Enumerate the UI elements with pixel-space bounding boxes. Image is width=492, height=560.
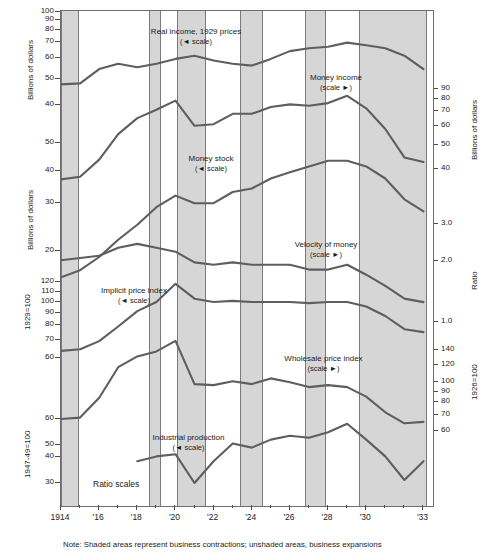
left-axis-tick-label: 100	[28, 297, 54, 305]
x-axis-tick-label: '26	[283, 512, 294, 522]
annotation-real-income: Real income, 1929 prices (◄ scale)	[126, 27, 266, 47]
right-axis-title-1: Billions of dollars	[470, 100, 479, 160]
right-axis-tick-label: 50	[441, 140, 465, 148]
chart-plot-area: Real income, 1929 prices (◄ scale) Money…	[60, 10, 434, 507]
x-axis-tick	[289, 505, 290, 510]
right-axis-tick-label: 80	[441, 94, 465, 102]
left-axis-title-1: Billions of dollars	[26, 40, 35, 100]
right-axis-tick-label: 80	[441, 397, 467, 405]
left-axis-tick-label: 90	[28, 308, 54, 316]
left-axis-tick-label: 30	[30, 478, 54, 486]
annotation-velocity-scale: (scale ►)	[261, 250, 391, 260]
right-axis-tick-label: 3.0	[441, 219, 467, 227]
left-axis-tick-label: 60	[28, 353, 54, 361]
x-axis-minor-tick	[403, 505, 404, 508]
right-axis-tick-label: 1.0	[441, 317, 467, 325]
annotation-money-stock-scale: (◄ scale)	[156, 164, 266, 174]
x-axis-tick	[327, 505, 328, 510]
x-axis-tick	[174, 505, 175, 510]
x-axis-minor-tick	[232, 505, 233, 508]
x-axis-minor-tick	[270, 505, 271, 508]
annotation-velocity-of-money: Velocity of money (scale ►)	[261, 240, 391, 260]
x-axis-tick	[60, 505, 61, 510]
right-axis-tick-label: 100	[441, 377, 467, 385]
annotation-money-income-scale: (scale ►)	[276, 83, 396, 93]
left-axis-tick-label: 70	[30, 37, 54, 45]
left-axis-tick-label: 30	[30, 198, 54, 206]
right-axis-tick-label: 40	[441, 164, 465, 172]
right-axis-title-3: 1926=100	[470, 364, 479, 400]
figure-note: Note: Shaded areas represent business co…	[63, 540, 382, 549]
x-axis-tick	[136, 505, 137, 510]
annotation-money-income: Money income (scale ►)	[276, 73, 396, 93]
right-axis-tick-label: 90	[441, 84, 465, 92]
right-axis-tick-label: 60	[441, 426, 467, 434]
left-axis-tick-label: 40	[30, 452, 54, 460]
annotation-velocity-text: Velocity of money	[295, 240, 358, 249]
right-axis-tick-label: 70	[441, 410, 467, 418]
left-axis-tick-label: 20	[30, 246, 54, 254]
annotation-wholesale-scale: (scale ►)	[251, 364, 396, 374]
x-axis-tick-label: 1914	[51, 512, 70, 522]
x-axis-tick	[98, 505, 99, 510]
x-axis-minor-tick	[308, 505, 309, 508]
x-axis-tick-label: '28	[322, 512, 333, 522]
annotation-money-stock-text: Money stock	[189, 154, 234, 163]
left-axis-tick-label: 60	[30, 414, 54, 422]
x-axis-tick	[422, 505, 423, 510]
left-axis-tick-label: 80	[30, 25, 54, 33]
x-axis-tick-label: '33	[417, 512, 428, 522]
left-axis-tick-label: 50	[30, 440, 54, 448]
x-axis-minor-tick	[117, 505, 118, 508]
x-axis-tick-label: '18	[131, 512, 142, 522]
annotation-implicit-text: Implicit price index	[101, 286, 167, 295]
figure-container: Billions of dollars 100 90 80 70 60 50 4…	[0, 0, 492, 560]
x-axis-tick-label: '20	[169, 512, 180, 522]
left-axis-tick-label: 60	[30, 53, 54, 61]
x-axis-minor-tick	[155, 505, 156, 508]
annotation-industrial-text: Industrial production	[152, 433, 224, 442]
right-axis-title-2: Ratio	[470, 271, 479, 290]
annotation-wholesale-text: Wholesale price index	[284, 354, 362, 363]
x-axis-tick	[365, 505, 366, 510]
x-axis-tick-label: '24	[245, 512, 256, 522]
left-axis-tick-label: 80	[28, 320, 54, 328]
x-axis-tick	[213, 505, 214, 510]
annotation-implicit-scale: (◄ scale)	[69, 296, 199, 306]
annotation-real-income-scale: (◄ scale)	[126, 37, 266, 47]
x-axis-minor-tick	[346, 505, 347, 508]
annotation-money-income-text: Money income	[310, 73, 362, 82]
annotation-industrial-scale: (◄ scale)	[121, 443, 256, 453]
x-axis-tick-label: '16	[93, 512, 104, 522]
left-axis-tick-label: 50	[30, 138, 54, 146]
annotation-money-stock: Money stock (◄ scale)	[156, 154, 266, 174]
left-axis-tick-label: 40	[30, 166, 54, 174]
right-axis-tick-label: 120	[441, 360, 467, 368]
x-axis-tick	[251, 505, 252, 510]
ratio-scales-label: Ratio scales	[93, 479, 139, 489]
left-axis-tick-label: 50	[30, 74, 54, 82]
x-axis-minor-tick	[79, 505, 80, 508]
annotation-wholesale-price-index: Wholesale price index (scale ►)	[251, 354, 396, 374]
x-axis-tick-label: '30	[360, 512, 371, 522]
annotation-real-income-text: Real income, 1929 prices	[151, 27, 241, 36]
right-axis-tick-label: 2.0	[441, 256, 467, 264]
right-axis-tick-label: 60	[441, 121, 465, 129]
left-axis-tick-label: 90	[30, 15, 54, 23]
x-axis-minor-tick	[194, 505, 195, 508]
x-axis-minor-tick	[384, 505, 385, 508]
right-axis-tick-label: 90	[441, 387, 467, 395]
left-axis-tick-label: 110	[28, 287, 54, 295]
annotation-implicit-price-index: Implicit price index (◄ scale)	[69, 286, 199, 306]
annotation-industrial-production: Industrial production (◄ scale)	[121, 433, 256, 453]
left-axis-tick-label: 40	[30, 100, 54, 108]
left-axis-tick-label: 120	[28, 277, 54, 285]
right-axis-tick-label: 70	[441, 106, 465, 114]
right-axis-tick-label: 140	[441, 345, 467, 353]
x-axis-tick-label: '22	[207, 512, 218, 522]
left-axis-tick-label: 70	[28, 335, 54, 343]
